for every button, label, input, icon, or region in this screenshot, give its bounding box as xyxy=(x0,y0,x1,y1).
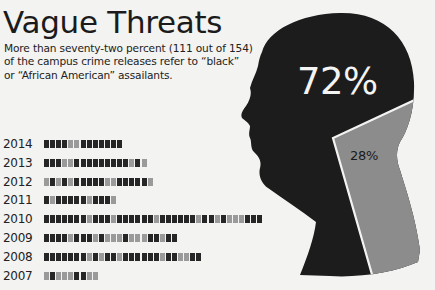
year-row-2010: 2010 xyxy=(0,212,262,226)
dark-unit-square xyxy=(74,253,79,261)
unit-squares xyxy=(44,234,177,242)
year-row-2014: 2014 xyxy=(0,137,122,151)
gray-unit-square xyxy=(68,234,73,242)
dark-unit-square xyxy=(154,253,159,261)
minority-percent-label: 28% xyxy=(350,148,378,163)
unit-squares xyxy=(44,140,122,148)
dark-unit-square xyxy=(105,196,110,204)
dark-unit-square xyxy=(99,178,104,186)
dark-unit-square xyxy=(251,215,256,223)
dark-unit-square xyxy=(62,215,67,223)
gray-unit-square xyxy=(56,178,61,186)
gray-unit-square xyxy=(184,253,189,261)
unit-squares xyxy=(44,215,262,223)
dark-unit-square xyxy=(81,140,86,148)
dark-unit-square xyxy=(44,159,49,167)
dark-unit-square xyxy=(81,272,86,280)
year-label: 2011 xyxy=(0,193,44,207)
dark-unit-square xyxy=(93,159,98,167)
dark-unit-square xyxy=(123,253,128,261)
dark-unit-square xyxy=(44,215,49,223)
dark-unit-square xyxy=(74,196,79,204)
dark-unit-square xyxy=(99,140,104,148)
dark-unit-square xyxy=(209,215,214,223)
gray-unit-square xyxy=(68,159,73,167)
unit-squares xyxy=(44,159,147,167)
gray-unit-square xyxy=(87,272,92,280)
gray-unit-square xyxy=(117,234,122,242)
unit-squares xyxy=(44,196,116,204)
year-label: 2010 xyxy=(0,212,44,226)
dark-unit-square xyxy=(99,159,104,167)
dark-unit-square xyxy=(50,159,55,167)
dark-unit-square xyxy=(190,253,195,261)
dark-unit-square xyxy=(135,159,140,167)
year-label: 2008 xyxy=(0,250,44,264)
gray-unit-square xyxy=(44,272,49,280)
dark-unit-square xyxy=(50,253,55,261)
year-row-2008: 2008 xyxy=(0,250,201,264)
dark-unit-square xyxy=(62,196,67,204)
dark-unit-square xyxy=(56,253,61,261)
gray-unit-square xyxy=(74,140,79,148)
year-row-2007: 2007 xyxy=(0,269,98,283)
gray-unit-square xyxy=(87,196,92,204)
dark-unit-square xyxy=(87,178,92,186)
dark-unit-square xyxy=(87,159,92,167)
gray-unit-square xyxy=(111,234,116,242)
dark-unit-square xyxy=(68,196,73,204)
gray-unit-square xyxy=(196,215,201,223)
unit-squares xyxy=(44,178,153,186)
dark-unit-square xyxy=(117,140,122,148)
dark-unit-square xyxy=(257,215,262,223)
dark-unit-square xyxy=(87,140,92,148)
gray-unit-square xyxy=(99,253,104,261)
dark-unit-square xyxy=(99,234,104,242)
gray-unit-square xyxy=(154,215,159,223)
dark-unit-square xyxy=(93,196,98,204)
dark-unit-square xyxy=(50,178,55,186)
dark-unit-square xyxy=(123,159,128,167)
dark-unit-square xyxy=(81,234,86,242)
dark-unit-square xyxy=(160,215,165,223)
dark-unit-square xyxy=(172,253,177,261)
gray-unit-square xyxy=(227,215,232,223)
dark-unit-square xyxy=(68,253,73,261)
year-label: 2014 xyxy=(0,137,44,151)
dark-unit-square xyxy=(105,159,110,167)
dark-unit-square xyxy=(221,215,226,223)
gray-unit-square xyxy=(56,272,61,280)
gray-unit-square xyxy=(87,215,92,223)
dark-unit-square xyxy=(81,159,86,167)
year-label: 2012 xyxy=(0,175,44,189)
gray-unit-square xyxy=(129,159,134,167)
dark-unit-square xyxy=(172,215,177,223)
dark-unit-square xyxy=(99,196,104,204)
dark-unit-square xyxy=(81,253,86,261)
dark-unit-square xyxy=(148,215,153,223)
dark-unit-square xyxy=(74,215,79,223)
gray-unit-square xyxy=(62,159,67,167)
dark-unit-square xyxy=(44,253,49,261)
dark-unit-square xyxy=(142,178,147,186)
gray-unit-square xyxy=(233,215,238,223)
dark-unit-square xyxy=(123,215,128,223)
gray-unit-square xyxy=(117,253,122,261)
dark-unit-square xyxy=(50,215,55,223)
dark-unit-square xyxy=(62,253,67,261)
dark-unit-square xyxy=(105,140,110,148)
dark-unit-square xyxy=(44,196,49,204)
dark-unit-square xyxy=(93,253,98,261)
dark-unit-square xyxy=(142,253,147,261)
gray-unit-square xyxy=(142,234,147,242)
dark-unit-square xyxy=(74,272,79,280)
dark-unit-square xyxy=(184,215,189,223)
dark-unit-square xyxy=(62,178,67,186)
dark-unit-square xyxy=(117,178,122,186)
gray-unit-square xyxy=(178,253,183,261)
unit-squares xyxy=(44,272,98,280)
dark-unit-square xyxy=(196,253,201,261)
gray-unit-square xyxy=(148,178,153,186)
dark-unit-square xyxy=(50,234,55,242)
dark-unit-square xyxy=(81,215,86,223)
